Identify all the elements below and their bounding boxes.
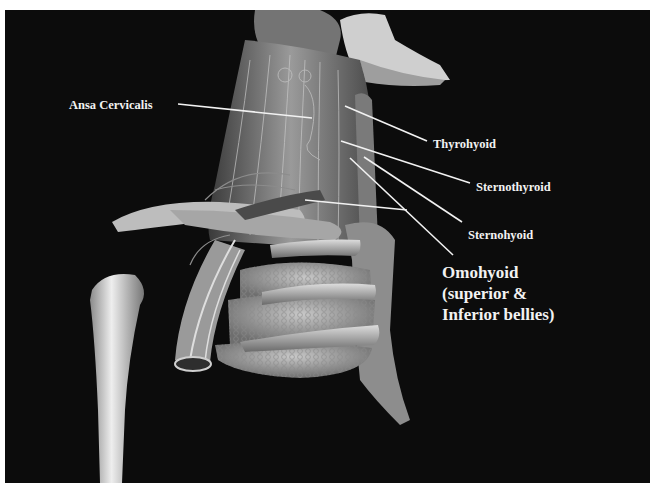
label-omohyoid-line2: (superior & [442,283,555,304]
label-sternothyroid: Sternothyroid [476,180,551,195]
label-ansa-cervicalis: Ansa Cervicalis [69,98,153,113]
label-sternohyoid: Sternohyoid [468,228,533,243]
anatomy-figure: Ansa Cervicalis Thyrohyoid Sternothyroid… [5,10,650,483]
label-omohyoid-line1: Omohyoid [442,262,555,283]
label-omohyoid-line3: Inferior bellies) [442,304,555,325]
label-omohyoid: Omohyoid (superior & Inferior bellies) [442,262,555,325]
anatomy-illustration [5,10,650,483]
humerus [90,274,144,483]
label-thyrohyoid: Thyrohyoid [433,137,496,152]
